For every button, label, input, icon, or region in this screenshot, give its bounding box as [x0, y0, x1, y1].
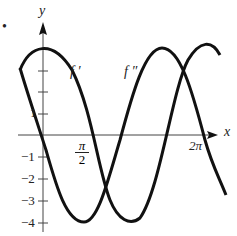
tick-label-1: 1	[30, 105, 37, 121]
pi-half-numerator: π	[75, 139, 89, 153]
f-prime-label: f ′	[70, 64, 80, 80]
tick-label-m4: −4	[21, 215, 35, 231]
tick-label-m3: −3	[21, 193, 35, 209]
y-axis-label: y	[39, 3, 45, 19]
tick-label-m1: −1	[21, 149, 35, 165]
bullet: •	[2, 19, 7, 35]
tick-label-2pi: 2π	[189, 138, 202, 154]
pi-half-denominator: 2	[75, 153, 89, 166]
tick-label-m2: −2	[21, 171, 35, 187]
f-prime-curve	[20, 44, 220, 221]
f-double-prime-label: f ″	[124, 64, 137, 80]
x-axis-label: x	[224, 124, 230, 140]
tick-label-pi-half: π 2	[75, 139, 89, 166]
